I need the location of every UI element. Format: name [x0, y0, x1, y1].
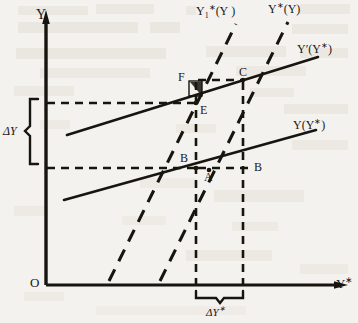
- point-label-E: E: [200, 104, 207, 116]
- point-dot-a-left: [194, 166, 199, 171]
- curve-y-of-y-star: [64, 130, 316, 200]
- point-label-D: F: [178, 71, 185, 83]
- bracket-label-delta-y-star: ΔY∗: [206, 305, 225, 318]
- point-label-B: B: [254, 161, 262, 173]
- y-axis-label: Y: [36, 8, 46, 22]
- point-dot-e: [194, 101, 199, 106]
- bracket-delta-y: [25, 99, 38, 164]
- curve-label-y-star-of-y: Y∗(Y): [268, 2, 300, 15]
- point-label-C: C: [239, 66, 247, 78]
- x-axis-label-text: Y: [336, 276, 345, 291]
- curve-label-y1-star-of-y: Y1∗(Y ): [196, 4, 235, 20]
- origin-label: O: [30, 276, 39, 289]
- curve-label-y-of-y-star: Y(Y∗): [293, 118, 325, 131]
- bracket-label-delta-y: ΔY: [3, 125, 17, 137]
- curve-y1-star-of-y: [109, 24, 236, 281]
- economics-diagram: Y Y∗ O Y1∗(Y ) Y∗(Y) Y′(Y∗) Y(Y∗) F C E …: [0, 0, 358, 323]
- x-axis-label: Y∗: [336, 276, 353, 290]
- curve-label-y-prime-of-y-star: Y′(Y∗): [297, 42, 332, 55]
- x-axis-star: ∗: [345, 275, 353, 285]
- point-label-A: A: [204, 171, 213, 183]
- point-label-F: B: [180, 152, 188, 164]
- bracket-delta-y-star: [196, 291, 243, 303]
